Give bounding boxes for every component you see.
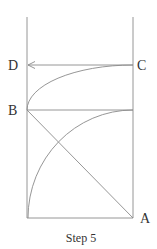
diagonal-b-to-a [27,110,133,218]
upper-arc [27,65,133,110]
label-b: B [8,103,17,118]
step-caption: Step 5 [66,231,96,245]
construction-diagram: D C B A Step 5 [0,0,157,249]
label-c: C [137,58,146,73]
label-a: A [140,211,151,226]
label-d: D [8,58,18,73]
